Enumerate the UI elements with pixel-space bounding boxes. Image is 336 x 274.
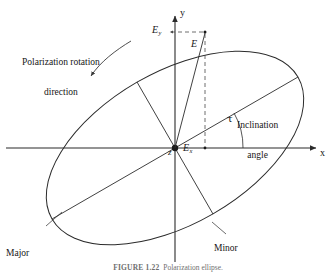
inclination-angle-line1: Inclination [237,120,278,130]
figure-caption: FIGURE 1.22 Polarization ellipse. [0,263,336,274]
tau-symbol-label: τ [227,114,233,125]
figure-container: Polarization rotation direction Inclinat… [0,0,336,274]
figure-caption-label: FIGURE 1.22 [113,263,159,272]
field-vector-E [175,33,205,148]
inclination-angle-line2: angle [237,150,278,160]
component-Ex-subscript: x [189,147,192,154]
field-vector-label: E [191,39,197,50]
origin-z-label: z [168,148,172,158]
inclination-angle-label: Inclination angle [237,99,278,181]
projection-point-Ex [204,147,207,150]
major-axis-leader-line [46,212,62,226]
major-axis-line1: Major [6,248,29,258]
component-Ey-subscript: y [158,29,161,36]
field-vector-endpoint [204,31,207,34]
polarization-rotation-line1: Polarization rotation [22,57,100,67]
minor-axis-line1: Minor [214,243,238,253]
polarization-rotation-line2: direction [22,87,100,97]
x-axis-label: x [320,148,325,159]
polarization-rotation-label: Polarization rotation direction [22,36,100,118]
figure-caption-text: Polarization ellipse. [163,263,223,272]
y-axis-label: y [180,8,185,19]
component-Ey-label: Ey [152,25,161,36]
component-Ex-label: Ex [183,143,192,154]
